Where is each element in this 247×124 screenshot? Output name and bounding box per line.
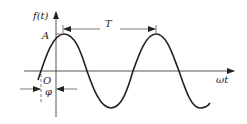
period-label: T	[105, 18, 113, 29]
origin-label: O	[43, 75, 51, 86]
x-axis-label: ωt	[216, 74, 229, 85]
amplitude-label: A	[41, 30, 49, 41]
phase-label: φ	[45, 86, 52, 97]
y-axis-label: f(t)	[32, 10, 49, 21]
sine-wave-diagram: f(t) A T O φ ωt	[0, 0, 247, 124]
